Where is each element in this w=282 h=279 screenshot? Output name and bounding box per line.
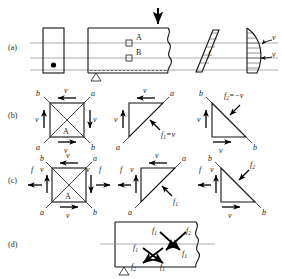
cross-l-bl-sub: 2	[133, 266, 136, 272]
cross-l-br-sub: 1	[162, 266, 165, 272]
cross-lower: f1 f2 f1	[131, 243, 165, 272]
svg-text:f1: f1	[133, 243, 138, 253]
svg-text:f2: f2	[186, 226, 191, 236]
cross-l-tl-sub: 1	[135, 247, 138, 253]
cross-u-br-sub: 1	[184, 253, 187, 259]
cross-u-tl-sub: 1	[154, 230, 157, 236]
panel-d-beam	[100, 222, 215, 275]
svg-text:f1: f1	[152, 226, 157, 236]
panel-d: f1 f2 f1 f1 f2 f1	[0, 0, 282, 279]
support-triangle-d	[119, 267, 129, 275]
svg-text:f2: f2	[131, 262, 136, 272]
figure-canvas: (a) (b) (c) (d)	[0, 0, 282, 279]
cross-u-tr-sub: 2	[188, 230, 191, 236]
svg-text:f1: f1	[182, 249, 187, 259]
cross-upper: f1 f2 f1	[152, 226, 191, 259]
